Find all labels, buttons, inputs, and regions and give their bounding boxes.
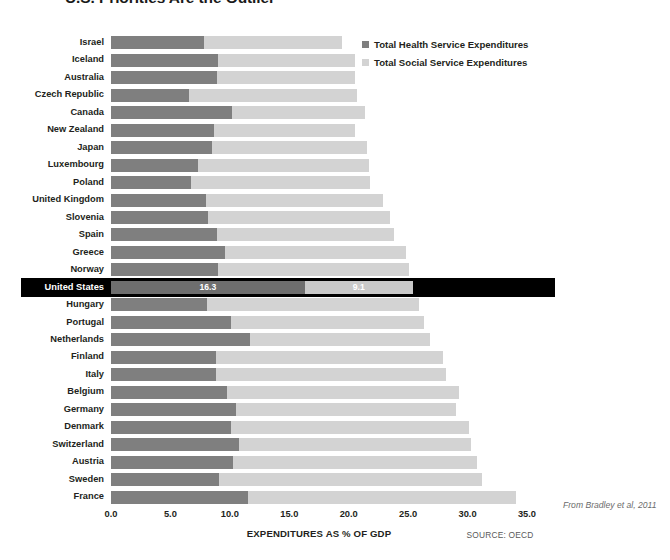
bar-segment-health [111,246,225,259]
bar-segment-social [216,351,443,364]
bar-segment-social [206,194,383,207]
bar-row: United Kingdom [0,191,670,208]
x-tick-label: 15.0 [259,509,319,519]
country-label: United States [21,278,104,297]
country-label: France [0,488,104,505]
bar-row: Poland [0,174,670,191]
bar-value-health: 16.3 [111,281,305,294]
bar-segment-social: 9.1 [305,281,413,294]
bar-segment-health [111,333,250,346]
bar-segment-health [111,228,217,241]
stacked-bar [111,298,419,311]
legend-label: Total Health Service Expenditures [374,39,528,50]
bar-segment-social [218,54,355,67]
stacked-bar [111,316,424,329]
country-label: Netherlands [0,331,104,348]
bar-segment-health [111,159,198,172]
stacked-bar [111,89,357,102]
stacked-bar [111,36,342,49]
bar-row-highlighted: United States16.39.1 [21,278,555,297]
legend-swatch-icon [362,41,369,48]
bar-segment-social [208,211,390,224]
bar-segment-health [111,473,219,486]
stacked-bar [111,246,406,259]
country-label: Belgium [0,383,104,400]
x-tick-label: 20.0 [319,509,379,519]
bar-segment-health [111,124,214,137]
country-label: Finland [0,348,104,365]
bar-value-social: 9.1 [305,281,413,294]
bar-row: Sweden [0,471,670,488]
bar-row: Czech Republic [0,86,670,103]
country-label: Denmark [0,418,104,435]
bar-row: Portugal [0,314,670,331]
stacked-bar [111,228,394,241]
bar-segment-health [111,89,189,102]
stacked-bar [111,491,516,504]
bar-segment-social [232,106,365,119]
bar-segment-social [207,298,419,311]
country-label: New Zealand [0,121,104,138]
country-label: Austria [0,453,104,470]
legend-item-health: Total Health Service Expenditures [362,36,592,52]
bar-row: Finland [0,348,670,365]
bar-row: Netherlands [0,331,670,348]
bar-row: Germany [0,401,670,418]
bar-segment-social [225,246,406,259]
country-label: Israel [0,34,104,51]
x-tick-label: 10.0 [200,509,260,519]
bar-segment-health [111,421,231,434]
bar-row: Japan [0,139,670,156]
stacked-bar [111,333,430,346]
bar-segment-health [111,386,227,399]
bar-segment-social [248,491,517,504]
country-label: Iceland [0,51,104,68]
bar-segment-health [111,316,231,329]
bar-row: Luxembourg [0,156,670,173]
country-label: Luxembourg [0,156,104,173]
source-note: SOURCE: OECD [440,530,560,540]
x-tick-label: 30.0 [438,509,498,519]
bar-segment-health [111,141,212,154]
legend-item-social: Total Social Service Expenditures [362,54,592,70]
country-label: Japan [0,139,104,156]
country-label: Slovenia [0,209,104,226]
country-label: Germany [0,401,104,418]
country-label: Czech Republic [0,86,104,103]
stacked-bar [111,473,482,486]
bar-segment-social [191,176,370,189]
country-label: Switzerland [0,436,104,453]
stacked-bar [111,194,383,207]
bar-row: Slovenia [0,209,670,226]
bar-segment-health [111,54,218,67]
stacked-bar: 16.39.1 [111,281,413,294]
stacked-bar [111,141,367,154]
stacked-bar [111,438,471,451]
bar-segment-health [111,211,208,224]
x-tick-label: 0.0 [81,509,141,519]
stacked-bar [111,421,469,434]
bar-segment-health [111,176,191,189]
country-label: Spain [0,226,104,243]
bar-segment-health [111,456,233,469]
bar-segment-health [111,491,248,504]
bar-segment-social [212,141,367,154]
bar-row: Canada [0,104,670,121]
bar-segment-health [111,263,218,276]
bar-segment-social [198,159,369,172]
country-label: Norway [0,261,104,278]
country-label: Hungary [0,296,104,313]
stacked-bar [111,124,355,137]
country-label: Australia [0,69,104,86]
stacked-bar [111,71,355,84]
bar-segment-social [250,333,429,346]
bar-segment-social [214,124,354,137]
bar-row: Norway [0,261,670,278]
stacked-bar [111,263,409,276]
bar-segment-health [111,194,206,207]
country-label: Poland [0,174,104,191]
bar-segment-health [111,438,239,451]
stacked-bar [111,54,355,67]
bar-row: Italy [0,366,670,383]
stacked-bar [111,386,459,399]
